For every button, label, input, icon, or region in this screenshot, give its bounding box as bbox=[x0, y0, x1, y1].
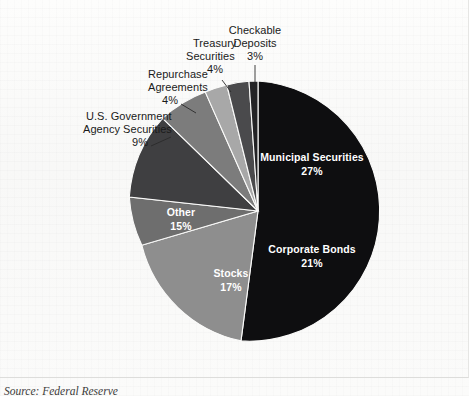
pie-callout-us-government-agency-securities-line2: Agency Securities bbox=[83, 123, 172, 135]
pie-callout-repurchase-agreements-value: 4% bbox=[162, 94, 178, 106]
pie-callout-checkable-deposits-line1: Checkable bbox=[229, 24, 281, 36]
pie-callout-us-government-agency-securities: U.S. Government Agency Securities 9% bbox=[83, 110, 172, 148]
pie-label-corporate-bonds-name: Corporate Bonds bbox=[268, 243, 355, 255]
pie-callout-us-government-agency-securities-value: 9% bbox=[132, 136, 148, 148]
pie-label-stocks-name: Stocks bbox=[213, 267, 248, 279]
figure-page: Municipal Securities 27% Corporate Bonds… bbox=[0, 0, 469, 396]
source-caption: Source: Federal Reserve bbox=[4, 385, 118, 396]
pie-callout-checkable-deposits: Checkable Deposits 3% bbox=[229, 24, 281, 82]
pie-callout-checkable-deposits-value: 3% bbox=[247, 50, 263, 62]
pie-chart: Municipal Securities 27% Corporate Bonds… bbox=[0, 0, 469, 378]
pie-label-other-value: 15% bbox=[170, 220, 192, 232]
pie-callout-treasury-securities-line2: Securities bbox=[186, 50, 235, 62]
pie-callout-checkable-deposits-line2: Deposits bbox=[233, 37, 277, 49]
pie-label-corporate-bonds-value: 21% bbox=[301, 257, 323, 269]
pie-callout-repurchase-agreements-line1: Repurchase bbox=[148, 68, 208, 80]
pie-slice-municipal-securities[interactable] bbox=[241, 81, 380, 341]
pie-callout-us-government-agency-securities-line1: U.S. Government bbox=[86, 110, 172, 122]
pie-label-municipal-securities-value: 27% bbox=[301, 165, 323, 177]
pie-label-other-name: Other bbox=[167, 206, 196, 218]
pie-callout-repurchase-agreements-line2: Agreements bbox=[148, 81, 208, 93]
pie-callout-treasury-securities-line1: Treasury bbox=[193, 37, 237, 49]
pie-label-stocks-value: 17% bbox=[220, 281, 242, 293]
pie-label-municipal-securities-name: Municipal Securities bbox=[260, 151, 364, 163]
pie-callout-treasury-securities-value: 4% bbox=[207, 63, 223, 75]
